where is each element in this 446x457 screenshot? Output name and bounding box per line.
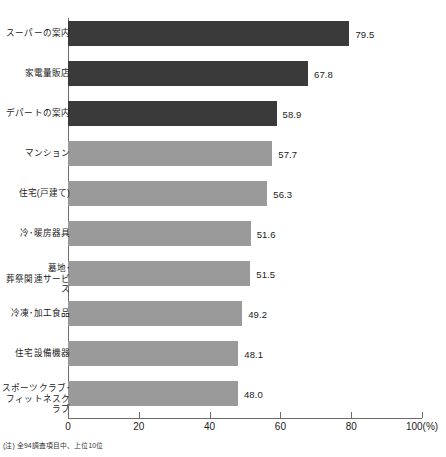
bar-row: 51.5	[68, 261, 422, 286]
bar-row: 48.1	[68, 341, 422, 366]
bar-row: 79.5	[68, 21, 422, 46]
category-label: 冷･暖房器具	[20, 228, 70, 239]
bar-value-label: 49.2	[248, 308, 267, 319]
x-axis-tick-label: 40	[204, 421, 215, 432]
bar	[68, 21, 349, 46]
bar-row: 67.8	[68, 61, 422, 86]
bar	[68, 341, 238, 366]
bar-row: 56.3	[68, 181, 422, 206]
bar-value-label: 48.1	[244, 348, 263, 359]
bar-row: 58.9	[68, 101, 422, 126]
chart-footnote: (注) 全94調査項目中、上位10位	[3, 440, 103, 450]
x-axis-tick	[422, 412, 423, 418]
bar-row: 49.2	[68, 301, 422, 326]
plot-area: 79.567.858.957.756.351.651.549.248.148.0	[68, 18, 422, 418]
x-axis-tick-label: 20	[133, 421, 144, 432]
bar-value-label: 51.6	[257, 228, 276, 239]
category-label: スポーツクラブ･ フィットネスクラブ	[0, 383, 70, 415]
category-label: スーパーの案内	[6, 28, 70, 39]
bar-value-label: 57.7	[278, 148, 297, 159]
x-axis-tick	[139, 412, 140, 418]
x-axis-tick-label: 100(%)	[406, 421, 438, 432]
bar	[68, 141, 272, 166]
bar-value-label: 58.9	[283, 108, 302, 119]
bar-value-label: 56.3	[273, 188, 292, 199]
bar	[68, 261, 250, 286]
bar-value-label: 79.5	[355, 28, 374, 39]
bar	[68, 101, 277, 126]
bar	[68, 181, 267, 206]
x-axis-line	[68, 418, 422, 419]
bar	[68, 301, 242, 326]
category-label: 冷凍･加工食品	[11, 308, 70, 319]
x-axis-tick	[210, 412, 211, 418]
category-label: 家電量販店	[25, 68, 71, 79]
category-label: 住宅設備機器	[15, 348, 70, 359]
bar-value-label: 67.8	[314, 68, 333, 79]
bar	[68, 381, 238, 406]
category-label: マンション	[25, 148, 71, 159]
x-axis-tick	[351, 412, 352, 418]
bar	[68, 61, 308, 86]
x-axis-tick-label: 0	[65, 421, 71, 432]
category-label: 住宅(戸建て)	[19, 188, 70, 199]
chart-title	[0, 0, 446, 3]
x-axis-tick	[280, 412, 281, 418]
category-label: デパートの案内	[6, 108, 70, 119]
bar-row: 48.0	[68, 381, 422, 406]
bar-value-label: 51.5	[256, 268, 275, 279]
bar-value-label: 48.0	[244, 388, 263, 399]
x-axis-tick-label: 80	[346, 421, 357, 432]
bar-row: 57.7	[68, 141, 422, 166]
x-axis-tick-label: 60	[275, 421, 286, 432]
category-label: 墓地･ 葬祭関連サービス	[0, 263, 70, 295]
bar-row: 51.6	[68, 221, 422, 246]
bar	[68, 221, 251, 246]
